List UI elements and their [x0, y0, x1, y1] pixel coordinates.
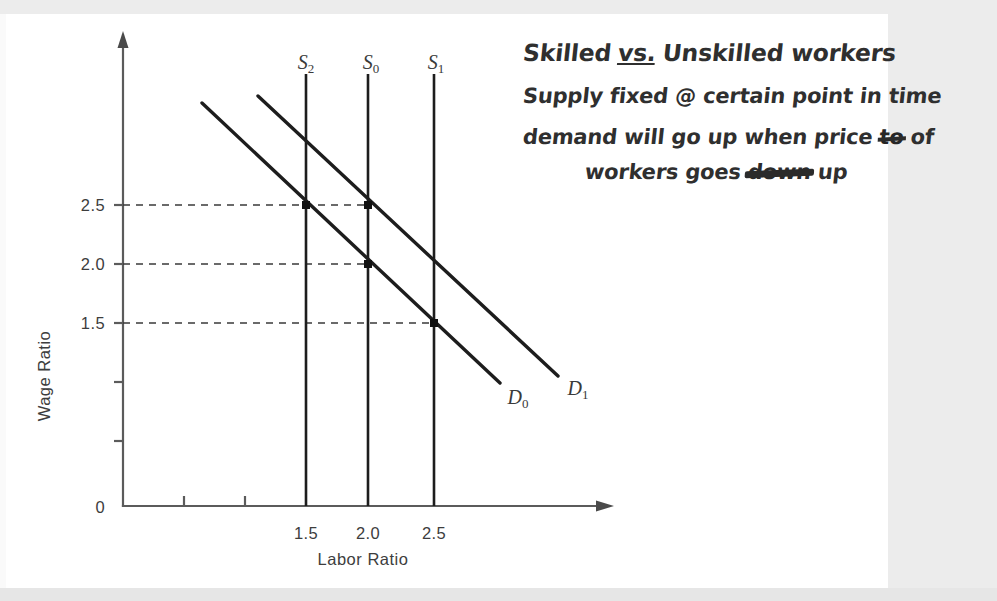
- supply-label-s0: S0: [363, 51, 380, 76]
- note-workers-goes: workers goes: [584, 160, 742, 184]
- y-axis-title: Wage Ratio: [35, 331, 53, 422]
- y-tick-label-2-5: 2.5: [81, 196, 105, 214]
- demand-curve-d1: [258, 96, 558, 376]
- equilibrium-dot-s0-d1: [364, 201, 372, 209]
- supply-label-s2: S2: [298, 51, 315, 76]
- note-up: up: [817, 160, 849, 184]
- note-unskilled-workers: Unskilled workers: [661, 39, 897, 67]
- x-axis-title: Labor Ratio: [318, 550, 409, 568]
- demand-curves-group: [202, 96, 558, 383]
- note-demand-up: demand will go up when price: [522, 125, 874, 149]
- equilibrium-dot-s2-d0: [302, 201, 310, 209]
- x-ticks-group: [184, 496, 245, 506]
- note-struck-to: to: [878, 125, 905, 149]
- note-struck-down: down: [747, 160, 813, 184]
- supply-curves-group: [306, 74, 434, 506]
- note-line-3: demand will go up when pricetoof: [522, 127, 994, 148]
- demand-label-d1: D1: [567, 377, 589, 402]
- y-axis-arrowhead: [118, 31, 129, 48]
- guide-lines-group: [123, 205, 434, 323]
- handwritten-annotations: Skilledvs.Unskilled workers Supply fixed…: [523, 42, 993, 183]
- x-tick-label-2-0: 2.0: [356, 524, 380, 542]
- y-tick-label-2-0: 2.0: [81, 255, 105, 273]
- y-tick-label-1-5: 1.5: [81, 314, 105, 332]
- scan-edge-bottom: [0, 588, 997, 601]
- scan-edge-top: [0, 0, 997, 14]
- note-supply-fixed: Supply fixed @ certain point in time: [522, 84, 943, 108]
- note-of: of: [909, 125, 935, 149]
- demand-curve-d0: [202, 103, 500, 383]
- equilibrium-dot-s1-d1: [430, 319, 438, 327]
- supply-label-s1: S1: [428, 51, 445, 76]
- x-axis-arrowhead: [596, 501, 614, 512]
- note-line-4: workers goesdownup: [584, 162, 994, 183]
- note-line-2: Supply fixed @ certain point in time: [522, 86, 994, 107]
- x-tick-label-1-5: 1.5: [294, 524, 318, 542]
- demand-label-d0: D0: [507, 386, 529, 411]
- y-ticks-group: [114, 205, 123, 441]
- x-tick-label-2-5: 2.5: [422, 524, 446, 542]
- note-skilled: Skilled: [522, 39, 613, 67]
- y-tick-label-0: 0: [95, 498, 105, 516]
- note-line-1: Skilledvs.Unskilled workers: [522, 42, 994, 66]
- equilibrium-dot-s0-d0: [364, 260, 372, 268]
- note-vs: vs.: [617, 39, 658, 67]
- scanned-page: 2.5 2.0 1.5 0 1.5 2.0 2.5: [0, 0, 997, 601]
